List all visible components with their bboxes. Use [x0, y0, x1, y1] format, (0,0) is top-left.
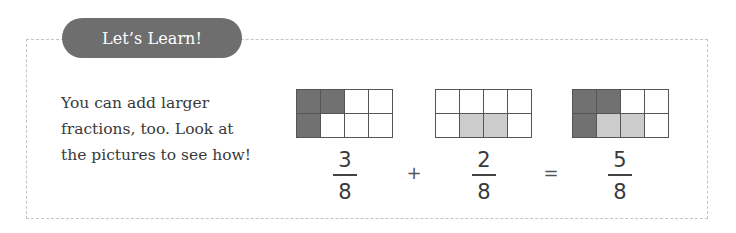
- fraction-three-eighths: 3 8: [325, 148, 365, 204]
- grid-cell-light: [460, 114, 483, 137]
- fraction-two-eighths: 2 8: [464, 148, 504, 204]
- fraction-bar: [608, 174, 632, 176]
- lesson-text-line: fractions, too. Look at: [61, 116, 261, 142]
- grid-cell-white: [508, 90, 531, 113]
- grid-cell-white: [345, 114, 368, 137]
- grid-cell-white: [436, 114, 459, 137]
- numerator: 2: [477, 148, 490, 172]
- equals-operator: =: [541, 162, 561, 183]
- plus-operator: +: [404, 162, 424, 183]
- lesson-text-line: the pictures to see how!: [61, 142, 261, 168]
- grid-cell-dark: [573, 114, 596, 137]
- fraction-bar: [333, 174, 357, 176]
- grid-cell-white: [621, 90, 644, 113]
- lets-learn-badge: Let’s Learn!: [62, 18, 242, 58]
- fraction-grid-three-eighths: [296, 89, 393, 138]
- numerator: 3: [338, 148, 351, 172]
- grid-cell-light: [597, 114, 620, 137]
- grid-cell-white: [645, 114, 668, 137]
- grid-cell-white: [369, 114, 392, 137]
- fraction-grid-five-eighths: [572, 89, 669, 138]
- fraction-five-eighths: 5 8: [600, 148, 640, 204]
- grid-cell-white: [645, 90, 668, 113]
- fraction-bar: [472, 174, 496, 176]
- grid-cell-dark: [597, 90, 620, 113]
- grid-cell-white: [508, 114, 531, 137]
- badge-label: Let’s Learn!: [102, 29, 202, 48]
- grid-cell-dark: [297, 114, 320, 137]
- fraction-grid-two-eighths: [435, 89, 532, 138]
- grid-cell-light: [484, 114, 507, 137]
- grid-cell-white: [345, 90, 368, 113]
- grid-cell-white: [484, 90, 507, 113]
- denominator: 8: [477, 180, 490, 204]
- grid-cell-light: [621, 114, 644, 137]
- lesson-text-line: You can add larger: [61, 90, 261, 116]
- grid-cell-white: [369, 90, 392, 113]
- numerator: 5: [613, 148, 626, 172]
- grid-cell-dark: [573, 90, 596, 113]
- grid-cell-dark: [321, 90, 344, 113]
- denominator: 8: [338, 180, 351, 204]
- grid-cell-white: [436, 90, 459, 113]
- grid-cell-dark: [297, 90, 320, 113]
- denominator: 8: [613, 180, 626, 204]
- grid-cell-white: [460, 90, 483, 113]
- lesson-text: You can add larger fractions, too. Look …: [61, 90, 261, 168]
- grid-cell-white: [321, 114, 344, 137]
